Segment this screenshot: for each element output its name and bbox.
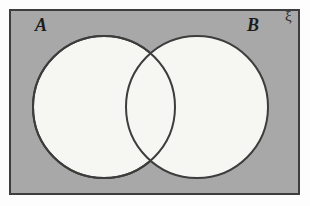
venn-diagram-figure: A B ξ xyxy=(0,0,310,206)
set-b-circle xyxy=(126,36,268,178)
set-a-label: A xyxy=(35,16,47,34)
universal-set-label: ξ xyxy=(285,9,292,24)
set-b-label: B xyxy=(247,16,259,34)
